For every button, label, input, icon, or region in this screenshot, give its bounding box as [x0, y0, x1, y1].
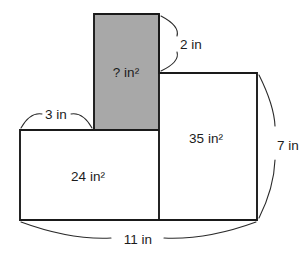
leader-3in-left [21, 114, 42, 128]
geometry-diagram: ? in² 24 in² 35 in² 2 in 3 in 7 in 11 in [0, 0, 303, 258]
leader-7in-upper [259, 75, 275, 126]
region-right-rectangle [159, 73, 257, 220]
leader-3in-right [71, 114, 92, 128]
leader-7in-lower [259, 160, 275, 218]
dimension-label-right-height: 7 in [277, 138, 299, 153]
area-label-top-shaded: ? in² [113, 65, 140, 80]
dimension-label-left-top-width: 3 in [45, 107, 67, 122]
leader-11in-left [21, 222, 111, 238]
dimension-value-top-width: 2 in [180, 37, 202, 52]
area-value-right: 35 in² [189, 131, 223, 146]
leader-2in-upper [161, 16, 177, 36]
dimension-value-bottom-width: 11 in [124, 232, 152, 247]
dimension-value-right-height: 7 in [277, 138, 299, 153]
area-label-right: 35 in² [189, 131, 223, 146]
dimension-label-top-width: 2 in [180, 37, 202, 52]
area-value-top-shaded: ? in² [113, 65, 140, 80]
leader-2in-lower [161, 52, 177, 71]
area-label-left: 24 in² [71, 169, 105, 184]
leader-11in-right [164, 222, 256, 238]
composite-figure-svg: ? in² 24 in² 35 in² 2 in 3 in 7 in 11 in [0, 0, 303, 258]
area-value-left: 24 in² [71, 169, 105, 184]
dimension-label-bottom-width: 11 in [124, 232, 152, 247]
dimension-value-left-top-width: 3 in [45, 107, 67, 122]
